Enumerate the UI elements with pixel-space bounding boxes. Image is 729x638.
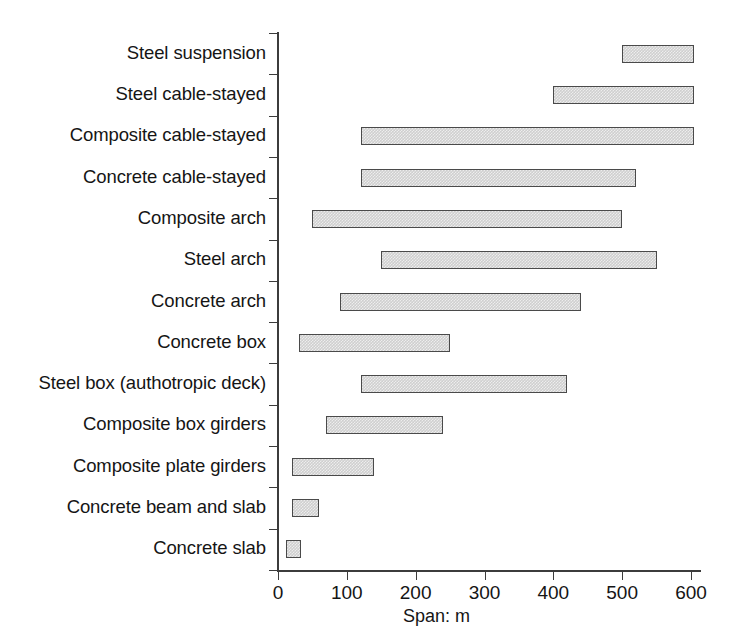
y-axis-tick: [269, 198, 278, 199]
category-label: Concrete arch: [0, 290, 266, 312]
category-label: Concrete cable-stayed: [0, 166, 266, 188]
y-axis-tick: [269, 281, 278, 282]
range-bar: [381, 251, 656, 269]
y-axis-tick: [269, 33, 278, 34]
y-axis-tick: [269, 116, 278, 117]
y-axis-tick: [269, 529, 278, 530]
category-label: Composite box girders: [0, 413, 266, 435]
x-axis-tick-label: 0: [273, 582, 284, 604]
x-axis-title: Span: m: [0, 606, 729, 627]
y-axis-tick: [269, 446, 278, 447]
category-label: Steel box (authotropic deck): [0, 372, 266, 394]
x-axis-title-text: Span: m: [403, 606, 470, 626]
category-label: Composite plate girders: [0, 455, 266, 477]
x-axis-tick-label: 600: [675, 582, 707, 604]
plot-area: [278, 33, 691, 570]
category-label: Composite cable-stayed: [0, 124, 266, 146]
x-axis-line: [277, 570, 701, 572]
category-label: Concrete box: [0, 331, 266, 353]
x-axis-tick: [553, 572, 554, 580]
range-bar: [340, 293, 581, 311]
y-axis-tick: [269, 487, 278, 488]
range-bar: [299, 334, 450, 352]
range-bar: [286, 540, 300, 558]
range-bar: [292, 458, 375, 476]
y-axis-tick: [269, 405, 278, 406]
range-bar: [553, 86, 694, 104]
y-axis-tick: [269, 157, 278, 158]
y-axis-tick: [269, 570, 278, 571]
range-bar: [361, 375, 568, 393]
x-axis-tick: [347, 572, 348, 580]
y-axis-tick: [269, 240, 278, 241]
category-label: Steel suspension: [0, 42, 266, 64]
y-axis-tick: [269, 363, 278, 364]
x-axis-tick: [691, 572, 692, 580]
x-axis-tick-label: 500: [606, 582, 638, 604]
x-axis-tick: [278, 572, 279, 580]
range-bar: [622, 45, 694, 63]
y-axis-tick: [269, 74, 278, 75]
range-bar: [361, 127, 695, 145]
x-axis-tick: [622, 572, 623, 580]
x-axis-tick: [485, 572, 486, 580]
x-axis-tick-label: 200: [400, 582, 432, 604]
range-bar: [292, 499, 320, 517]
y-axis-tick: [269, 322, 278, 323]
category-label: Composite arch: [0, 207, 266, 229]
x-axis-tick-label: 400: [537, 582, 569, 604]
x-axis-tick: [416, 572, 417, 580]
range-bar: [312, 210, 622, 228]
range-bar: [361, 169, 636, 187]
category-label: Concrete beam and slab: [0, 496, 266, 518]
category-label: Concrete slab: [0, 537, 266, 559]
range-bar: [326, 416, 443, 434]
category-label: Steel cable-stayed: [0, 83, 266, 105]
x-axis-tick-label: 100: [331, 582, 363, 604]
bridge-span-range-chart: Steel suspensionSteel cable-stayedCompos…: [0, 0, 729, 638]
x-axis-tick-label: 300: [469, 582, 501, 604]
category-label: Steel arch: [0, 248, 266, 270]
